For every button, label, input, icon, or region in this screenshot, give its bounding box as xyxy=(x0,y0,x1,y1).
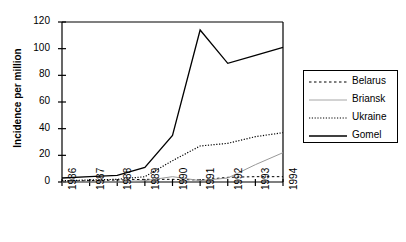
chart-figure: Incidence per million 020406080100120 19… xyxy=(0,0,406,242)
y-tick-label: 100 xyxy=(20,42,50,53)
x-tick-label: 1989 xyxy=(150,168,161,190)
legend-label-3: Gomel xyxy=(352,129,381,140)
y-tick-label: 40 xyxy=(20,122,50,133)
legend: Belarus Briansk Ukraine Gomel xyxy=(303,70,398,143)
x-tick-label: 1987 xyxy=(95,168,106,190)
legend-swatch-0 xyxy=(308,74,348,86)
legend-label-1: Briansk xyxy=(352,93,385,104)
legend-item-1[interactable]: Briansk xyxy=(304,89,399,107)
legend-item-3[interactable]: Gomel xyxy=(304,125,399,143)
y-tick-label: 120 xyxy=(20,15,50,26)
x-tick-label: 1986 xyxy=(67,168,78,190)
legend-item-0[interactable]: Belarus xyxy=(304,71,399,89)
legend-label-2: Ukraine xyxy=(352,111,386,122)
legend-swatch-1 xyxy=(308,92,348,104)
legend-swatch-3 xyxy=(308,128,348,140)
data-series-layer xyxy=(62,30,283,182)
x-tick-label: 1993 xyxy=(260,168,271,190)
legend-item-2[interactable]: Ukraine xyxy=(304,107,399,125)
legend-label-0: Belarus xyxy=(352,75,386,86)
legend-swatch-2 xyxy=(308,110,348,122)
x-tick-label: 1994 xyxy=(288,168,299,190)
x-tick-label: 1992 xyxy=(233,168,244,190)
y-tick-label: 60 xyxy=(20,95,50,106)
y-tick-label: 80 xyxy=(20,68,50,79)
series-line-gomel xyxy=(62,30,283,178)
x-tick-label: 1988 xyxy=(122,168,133,190)
y-tick-label: 0 xyxy=(20,175,50,186)
x-tick-label: 1990 xyxy=(178,168,189,190)
x-tick-label: 1991 xyxy=(205,168,216,190)
y-tick-label: 20 xyxy=(20,148,50,159)
